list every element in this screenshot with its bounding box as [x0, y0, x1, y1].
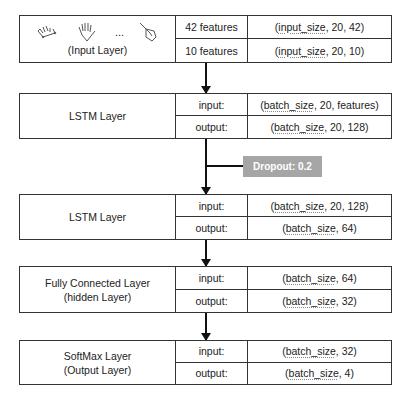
shape-suffix: , 64)	[336, 272, 357, 284]
lstm2-output-label: output:	[176, 217, 248, 239]
lstm2-output-shape: (batch_size, 64)	[248, 217, 391, 239]
lstm2-input-label: input:	[176, 195, 248, 217]
lstm1-output-shape: (batch_size, 20, 128)	[248, 116, 391, 138]
fc-output-shape: (batch_size, 32)	[248, 290, 391, 313]
fc-input-shape: (batch_size, 64)	[248, 267, 391, 290]
input-42-features-label: 42 features	[176, 16, 248, 39]
lstm1-layer-box: LSTM Layer input: (batch_size, 20, featu…	[19, 93, 392, 139]
fc-input-label: input:	[176, 267, 248, 290]
shape-dim-name: batch_size	[286, 272, 336, 284]
shape-dim-name: input_size	[278, 21, 325, 33]
shape-suffix: , 20, 42)	[326, 21, 365, 33]
shape-dim-name: batch_size	[274, 121, 324, 133]
shape-suffix: , 32)	[336, 345, 357, 357]
shape-suffix: , 20, features)	[314, 99, 379, 111]
input-layer-name-cell: ... (Input Layer)	[20, 16, 176, 62]
softmax-input-label: input:	[176, 341, 248, 363]
shape-suffix: , 20, 128)	[324, 121, 368, 133]
shape-dim-name: batch_size	[289, 367, 339, 379]
lstm1-output-label: output:	[176, 116, 248, 138]
input-layer-label: (Input Layer)	[68, 43, 128, 57]
softmax-name-line1: SoftMax Layer	[64, 349, 132, 363]
lstm2-layer-box: LSTM Layer input: (batch_size, 20, 128) …	[19, 194, 392, 240]
input-10-features-label: 10 features	[176, 39, 248, 62]
lstm1-input-label: input:	[176, 94, 248, 116]
dropout-badge: Dropout: 0.2	[243, 156, 322, 177]
shape-dim-name: batch_size	[286, 222, 336, 234]
fc-name-line2: (hidden Layer)	[64, 290, 132, 304]
shape-suffix: , 20, 10)	[326, 45, 365, 57]
hand-icons-row: ...	[28, 21, 168, 43]
ellipsis: ...	[115, 25, 124, 39]
lstm2-input-shape: (batch_size, 20, 128)	[248, 195, 391, 217]
shape-dim-name: batch_size	[286, 345, 336, 357]
pointing-hand-icon	[138, 21, 160, 43]
input-layer-box: ... (Input Layer) 42 features (input_siz…	[19, 15, 392, 63]
dropout-connector-line	[206, 165, 243, 167]
input-42-features-shape: (input_size, 20, 42)	[248, 16, 391, 39]
fc-layer-box: Fully Connected Layer (hidden Layer) inp…	[19, 266, 392, 313]
shape-dim-name: batch_size	[274, 200, 324, 212]
shape-dim-name: batch_size	[286, 295, 336, 307]
softmax-input-shape: (batch_size, 32)	[248, 341, 391, 363]
softmax-output-shape: (batch_size, 4)	[248, 363, 391, 385]
lstm1-name: LSTM Layer	[20, 94, 176, 138]
softmax-name: SoftMax Layer (Output Layer)	[20, 341, 176, 384]
shape-dim-name: input_size	[278, 45, 325, 57]
fc-output-label: output:	[176, 290, 248, 313]
shape-suffix: , 64)	[336, 222, 357, 234]
lstm1-input-shape: (batch_size, 20, features)	[248, 94, 391, 116]
softmax-layer-box: SoftMax Layer (Output Layer) input: (bat…	[19, 340, 392, 385]
arrow-lstm2-to-fc	[205, 240, 207, 266]
fc-name-line1: Fully Connected Layer	[45, 276, 150, 290]
arrow-input-to-lstm1	[205, 63, 207, 93]
softmax-name-line2: (Output Layer)	[64, 363, 132, 377]
input-10-features-shape: (input_size, 20, 10)	[248, 39, 391, 62]
shape-suffix: , 4)	[339, 367, 354, 379]
hand-gesture-icon	[35, 23, 59, 41]
lstm2-name: LSTM Layer	[20, 195, 176, 239]
open-hand-icon	[73, 21, 101, 43]
shape-suffix: , 20, 128)	[324, 200, 368, 212]
softmax-output-label: output:	[176, 363, 248, 385]
arrow-fc-to-softmax	[205, 313, 207, 340]
shape-suffix: , 32)	[336, 295, 357, 307]
shape-dim-name: batch_size	[264, 99, 314, 111]
fc-name: Fully Connected Layer (hidden Layer)	[20, 267, 176, 312]
